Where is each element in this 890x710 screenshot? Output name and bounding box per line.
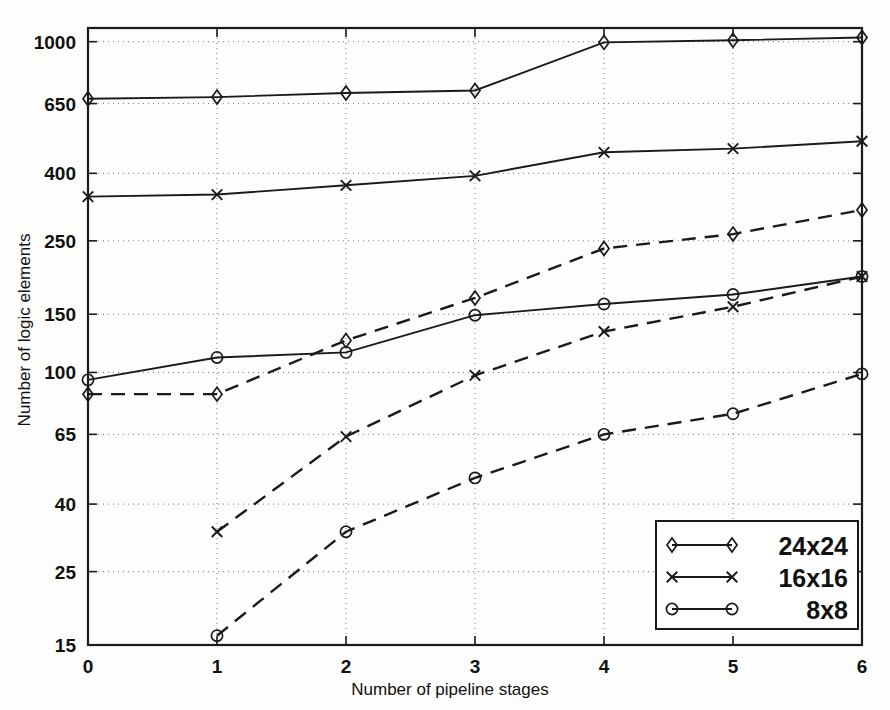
series-16x16-dashed [212,271,868,537]
legend-label: 16x16 [778,564,848,592]
x-axis-title: Number of pipeline stages [351,680,549,699]
data-point-x-icon [341,431,352,442]
chart-figure: 1525406510015025040065010000123456 24x24… [0,0,890,710]
y-axis-tick-label: 150 [44,304,76,325]
x-axis-tick-label: 2 [341,656,352,677]
y-axis-tick-label: 100 [44,362,76,383]
series-line [88,210,862,394]
y-axis-tick-label: 650 [44,94,76,115]
y-axis-tick-label: 15 [55,635,77,656]
y-axis-tick-label: 65 [55,424,77,445]
y-axis-tick-label: 250 [44,231,76,252]
chart-plot-area: 1525406510015025040065010000123456 24x24… [0,0,890,710]
legend-label: 24x24 [778,532,848,560]
x-axis-tick-label: 4 [599,656,610,677]
y-axis-tick-label: 25 [55,562,77,583]
x-axis-tick-label: 3 [470,656,481,677]
gridlines [88,42,862,572]
x-axis-tick-label: 1 [212,656,223,677]
y-axis-title: Number of logic elements [15,234,34,427]
x-axis-tick-label: 6 [857,656,868,677]
legend-label: 8x8 [806,596,848,624]
x-axis-tick-label: 0 [83,656,94,677]
chart-legend: 24x2416x168x8 [656,521,858,629]
y-axis-tick-label: 1000 [34,32,76,53]
y-axis-tick-label: 40 [55,494,76,515]
x-axis-tick-label: 5 [728,656,739,677]
data-point-diamond-icon [341,333,351,347]
y-axis-tick-label: 400 [44,163,76,184]
